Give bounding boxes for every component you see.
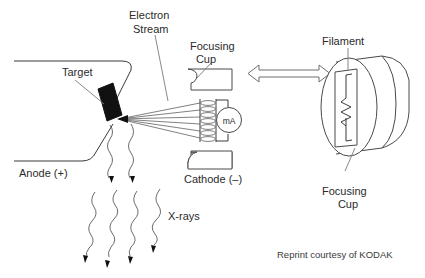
- bidirectional-arrow: [248, 65, 330, 82]
- milliamp-meter-label: mA: [223, 116, 236, 126]
- label-credit: Reprint courtesy of KODAK: [277, 249, 393, 260]
- coil-turn: [201, 119, 216, 124]
- label-electron-stream-line1: Electron: [129, 9, 169, 21]
- xray-arrows: [83, 124, 161, 268]
- xray-wave: [108, 125, 113, 178]
- xray-tube-diagram: mA: [0, 0, 425, 278]
- leader-electron-stream: [155, 35, 168, 101]
- focusing-cup-top-shape: [188, 69, 232, 90]
- xray-arrowhead: [151, 245, 156, 253]
- coil-turn: [201, 107, 216, 112]
- label-filament: Filament: [322, 35, 364, 47]
- xray-arrowhead: [128, 256, 133, 264]
- focusing-cup-top: [188, 69, 232, 90]
- filament-meter-assembly: mA: [200, 99, 242, 142]
- label-focusing-cup-top-line2: Cup: [196, 53, 216, 65]
- filament-coil: [201, 101, 216, 142]
- xray-tube-illustration: mA: [0, 0, 425, 278]
- electron-beam-group: [117, 103, 200, 138]
- xray-arrowhead: [83, 255, 88, 263]
- xray-wave: [86, 192, 96, 257]
- xray-wave: [108, 190, 117, 257]
- coil-turn: [201, 125, 216, 130]
- label-xrays: X-rays: [168, 210, 200, 222]
- xray-arrowhead: [130, 176, 135, 183]
- focusing-cup-cylinder: [321, 56, 409, 156]
- label-cathode: Cathode (–): [184, 173, 242, 185]
- coil-turn: [201, 101, 216, 106]
- label-focusing-cup-bottom-line2: Cup: [338, 198, 358, 210]
- coil-turn: [201, 137, 216, 142]
- xray-wave: [129, 124, 134, 178]
- xray-wave: [129, 191, 138, 256]
- label-focusing-cup-bottom-line1: Focusing: [322, 185, 367, 197]
- cathode-assembly: [188, 151, 232, 169]
- xray-wave: [152, 189, 160, 245]
- meter-wire-top: [216, 100, 228, 107]
- meter-wire-bottom: [216, 134, 228, 141]
- label-target: Target: [62, 66, 93, 78]
- label-anode: Anode (+): [19, 167, 68, 179]
- coil-turn: [201, 131, 216, 136]
- anode-lower-outline: [14, 124, 113, 161]
- xray-arrowhead: [109, 176, 114, 183]
- bidirectional-arrow-shape: [248, 65, 330, 82]
- label-electron-stream-line2: Stream: [133, 23, 168, 35]
- cathode-shape: [188, 151, 232, 169]
- label-focusing-cup-top-line1: Focusing: [190, 40, 235, 52]
- coil-turn: [201, 113, 216, 118]
- xray-arrowhead: [105, 260, 110, 268]
